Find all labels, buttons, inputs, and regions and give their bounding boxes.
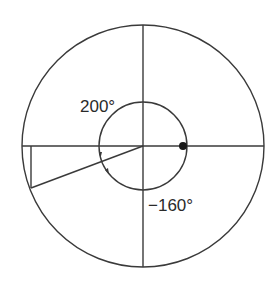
label-minus-160-degrees: −160° <box>148 196 193 215</box>
coterminal-angle-diagram: 200° −160° <box>0 0 280 284</box>
initial-point-dot <box>179 142 187 150</box>
label-200-degrees: 200° <box>80 97 115 116</box>
terminal-side <box>31 146 143 188</box>
